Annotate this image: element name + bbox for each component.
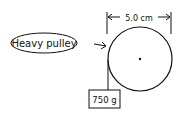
pulley-axle bbox=[139, 58, 141, 60]
mass-label: 750 g bbox=[92, 95, 116, 105]
callout-arrow-icon bbox=[94, 42, 106, 49]
callout-label: Heavy pulley bbox=[11, 38, 76, 49]
pulley-diagram: 5.0 cm Heavy pulley 750 g bbox=[0, 0, 181, 116]
diameter-label: 5.0 cm bbox=[125, 14, 153, 23]
